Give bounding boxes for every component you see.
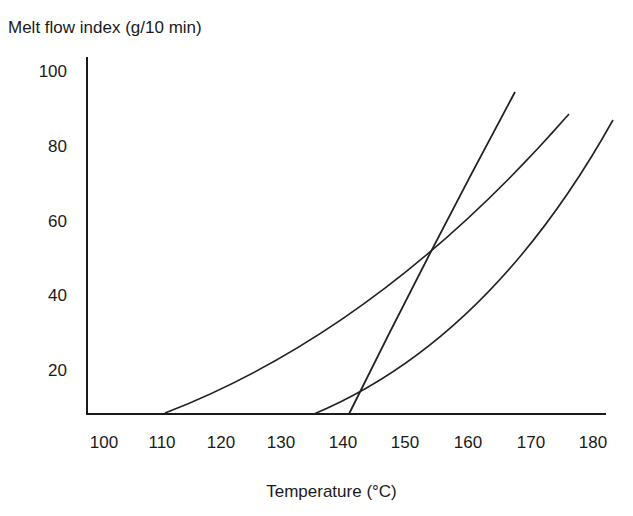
curve-a-line	[165, 114, 569, 413]
plot-area	[0, 0, 633, 516]
curve-b-line	[349, 92, 515, 414]
curve-c-line	[314, 120, 613, 414]
